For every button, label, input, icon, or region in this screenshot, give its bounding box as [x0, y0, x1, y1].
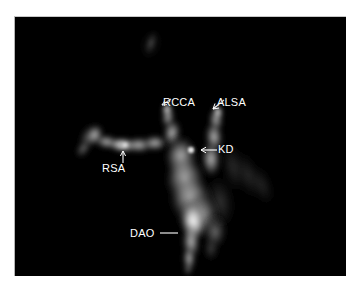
focal-bright-spot: [186, 145, 196, 155]
angiography-image-panel: RCCA ALSA KD RSA DAO: [14, 16, 346, 276]
vessel-tree-image: [15, 17, 346, 276]
angiography-figure: RCCA ALSA KD RSA DAO: [0, 0, 353, 289]
rsa-bright-highlight: [119, 141, 131, 149]
